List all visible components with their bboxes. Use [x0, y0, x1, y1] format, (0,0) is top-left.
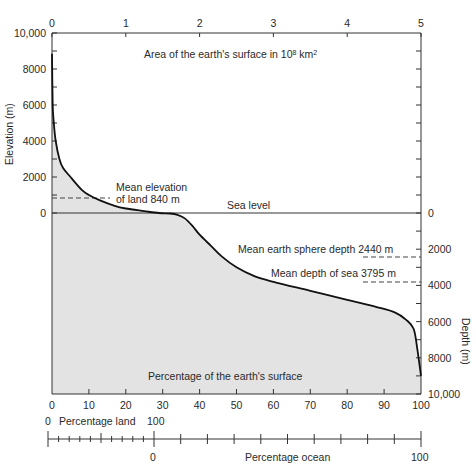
- bottom-axis-tick-label: 0: [49, 399, 55, 411]
- top-axis-tick-label: 4: [344, 17, 350, 29]
- right-axis-tick-label: 2000: [428, 243, 452, 255]
- left-axis-title: Elevation (m): [3, 103, 15, 165]
- land-scale-start: 0: [45, 415, 51, 427]
- left-axis-tick-label: 2000: [23, 171, 47, 183]
- bottom-axis-tick-label: 100: [412, 399, 430, 411]
- shaded-area: [52, 54, 421, 394]
- top-axis-tick-label: 0: [49, 17, 55, 29]
- right-axis-title: Depth (m): [460, 318, 472, 365]
- left-axis-tick-label: 6000: [23, 99, 47, 111]
- mean-land-label-1: Mean elevation: [116, 181, 187, 193]
- right-axis-tick-label: 0: [428, 207, 434, 219]
- top-axis-tick-label: 3: [270, 17, 276, 29]
- bottom-axis-tick-label: 70: [304, 399, 316, 411]
- top-axis-tick-label: 1: [123, 17, 129, 29]
- left-axis-tick-label: 10,000: [14, 27, 46, 39]
- top-axis-tick-label: 5: [418, 17, 424, 29]
- bottom-axis-tick-label: 90: [378, 399, 390, 411]
- ocean-scale-label: Percentage ocean: [245, 451, 330, 463]
- ocean-scale-start: 0: [150, 451, 156, 463]
- bottom-axis-tick-label: 60: [268, 399, 280, 411]
- bottom-axis-title: Percentage of the earth's surface: [148, 370, 303, 382]
- left-axis-tick-label: 0: [40, 207, 46, 219]
- mean-sphere-label: Mean earth sphere depth 2440 m: [238, 243, 394, 255]
- mean-sea-label: Mean depth of sea 3795 m: [271, 267, 396, 279]
- right-axis-tick-label: 10,000: [428, 388, 460, 400]
- bottom-axis-tick-label: 30: [157, 399, 169, 411]
- right-axis-tick-label: 8000: [428, 352, 452, 364]
- right-axis-tick-label: 4000: [428, 279, 452, 291]
- left-axis-tick-label: 4000: [23, 135, 47, 147]
- land-scale-label: Percentage land: [59, 415, 136, 427]
- top-axis-tick-label: 2: [197, 17, 203, 29]
- right-axis-tick-label: 6000: [428, 316, 452, 328]
- mean-land-label-2: of land 840 m: [116, 193, 180, 205]
- hypsographic-chart: 01234510,0008000600040002000002000400060…: [0, 0, 476, 464]
- left-axis-tick-label: 8000: [23, 63, 47, 75]
- bottom-axis-tick-label: 20: [120, 399, 132, 411]
- top-axis-title: Area of the earth's surface in 108 km2: [144, 48, 317, 60]
- ocean-scale-end: 100: [411, 451, 429, 463]
- sea-level-label: Sea level: [227, 199, 270, 211]
- bottom-axis-tick-label: 80: [341, 399, 353, 411]
- bottom-axis-tick-label: 50: [231, 399, 243, 411]
- land-scale-end: 100: [147, 415, 165, 427]
- bottom-axis-tick-label: 10: [83, 399, 95, 411]
- bottom-axis-tick-label: 40: [194, 399, 206, 411]
